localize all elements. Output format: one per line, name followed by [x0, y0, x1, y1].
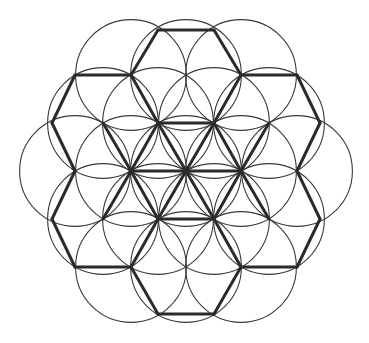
flower-of-life-figure — [0, 0, 369, 343]
